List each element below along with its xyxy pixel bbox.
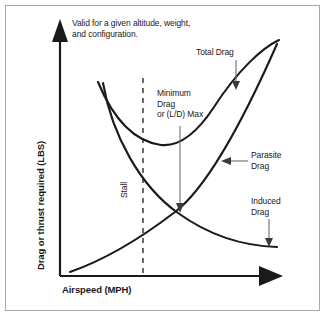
total-drag-label: Total Drag: [196, 47, 234, 58]
total-drag-leader-arrowhead: [232, 81, 240, 90]
parasite-drag-leader-arrowhead: [221, 157, 231, 165]
x-axis-title: Airspeed (MPH): [62, 285, 131, 296]
minimum-drag-label: Minimum Drag or (L/D) Max: [157, 88, 231, 120]
y-axis-title: Drag or thrust required (LBS): [36, 141, 47, 270]
y-axis-arrowhead: [52, 19, 68, 42]
parasite-drag-label: Parasite Drag: [251, 150, 311, 171]
parasite-drag-curve: [70, 44, 277, 272]
drag-curve-figure: Valid for a given altitude, weight, and …: [0, 0, 328, 327]
validity-note: Valid for a given altitude, weight, and …: [72, 18, 192, 39]
stall-label: Stall: [119, 182, 130, 198]
x-axis-arrowhead: [259, 266, 283, 286]
induced-drag-label: Induced Drag: [251, 196, 311, 217]
